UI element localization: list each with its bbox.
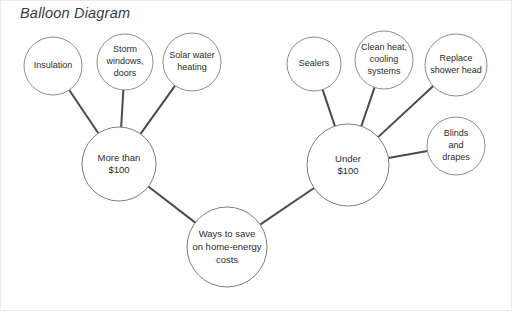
balloon-label-line: drapes (442, 152, 470, 162)
balloon-label-line: doors (114, 68, 137, 78)
balloon-leaf-insulation[interactable]: Insulation (24, 37, 82, 95)
balloon-label-line: Clean heat, (361, 42, 407, 52)
connector-leaf-storm-windows-doors-to-hub-more-than-100 (121, 90, 123, 127)
balloon-label-line: More than (98, 151, 141, 162)
balloon-label-line: Ways to save (199, 228, 256, 239)
balloon-leaf-replace-shower-head[interactable]: Replaceshower head (425, 34, 487, 96)
balloon-hub-more-than-100[interactable]: More than$100 (82, 127, 156, 201)
balloon-label-line: $100 (337, 165, 358, 176)
balloon-label-line: on home-energy (192, 241, 261, 252)
balloon-label-line: Sealers (299, 58, 330, 68)
connector-leaf-blinds-and-drapes-to-hub-under-100 (388, 151, 427, 158)
connector-hub-under-100-to-center (260, 188, 314, 225)
balloon-label-line: Storm (113, 44, 137, 54)
balloon-diagram-canvas: Balloon Diagram Ways to saveon home-ener… (0, 0, 513, 312)
balloon-label-line: heating (177, 62, 207, 72)
balloon-label-line: Under (335, 152, 361, 163)
balloon-leaf-storm-windows-doors[interactable]: Stormwindows,doors (97, 34, 153, 90)
balloon-label-line: and (448, 140, 463, 150)
balloon-label-line: Blinds (444, 128, 469, 138)
connector-leaf-clean-heat-cooling-systems-to-hub-under-100 (361, 87, 374, 126)
connector-leaf-sealers-to-hub-under-100 (323, 90, 335, 127)
balloon-label-line: $100 (108, 164, 129, 175)
connector-hub-more-than-100-to-center (148, 187, 195, 223)
connector-leaf-solar-water-heating-to-hub-more-than-100 (141, 86, 176, 134)
balloon-label-line: cooling (370, 54, 399, 64)
balloon-label-line: Insulation (34, 60, 73, 70)
balloon-diagram-svg: Ways to saveon home-energycostsMore than… (0, 0, 513, 312)
balloon-label-line: Solar water (169, 50, 215, 60)
balloon-label-line: windows, (105, 56, 143, 66)
balloon-label-leaf-insulation: Insulation (34, 60, 73, 70)
balloon-center[interactable]: Ways to saveon home-energycosts (187, 207, 267, 287)
connector-leaf-insulation-to-hub-more-than-100 (69, 90, 98, 133)
balloon-label-line: systems (367, 66, 401, 76)
balloon-leaf-solar-water-heating[interactable]: Solar waterheating (163, 33, 221, 91)
connector-leaf-replace-shower-head-to-hub-under-100 (378, 86, 433, 137)
balloon-label-line: costs (216, 253, 238, 264)
balloon-label-leaf-sealers: Sealers (299, 58, 330, 68)
nodes-layer: Ways to saveon home-energycostsMore than… (24, 31, 487, 287)
balloon-hub-under-100[interactable]: Under$100 (307, 124, 389, 206)
balloon-leaf-clean-heat-cooling-systems[interactable]: Clean heat,coolingsystems (355, 31, 413, 89)
balloon-label-line: Replace (439, 53, 472, 63)
balloon-leaf-sealers[interactable]: Sealers (287, 37, 341, 91)
balloon-leaf-blinds-and-drapes[interactable]: Blindsanddrapes (427, 117, 485, 175)
balloon-label-line: shower head (430, 65, 482, 75)
balloon-label-hub-under-100: Under$100 (335, 152, 361, 176)
